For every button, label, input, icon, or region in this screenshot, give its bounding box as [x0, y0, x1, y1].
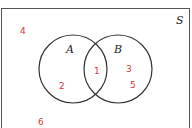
venn-diagram: S A B 4 6 2 1 3 5	[0, 0, 192, 128]
element-outside: 4	[20, 26, 26, 36]
element-b-only: 5	[130, 80, 136, 90]
set-a-label: A	[65, 43, 74, 56]
element-a-only: 2	[59, 81, 65, 91]
element-b-only: 3	[126, 64, 132, 74]
element-a-and-b: 1	[94, 66, 100, 76]
set-b-label: B	[113, 43, 122, 56]
universe-label: S	[176, 14, 184, 27]
element-outside: 6	[38, 117, 44, 127]
